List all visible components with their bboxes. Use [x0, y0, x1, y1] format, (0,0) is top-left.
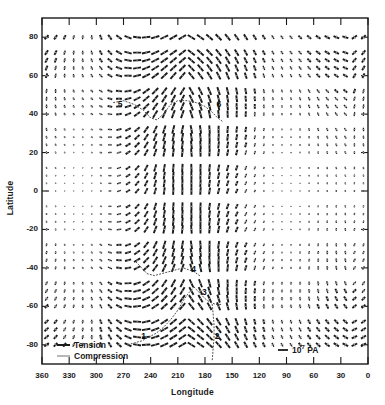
compression-segment [299, 306, 302, 307]
compression-segment [326, 137, 328, 138]
compression-segment [200, 91, 202, 92]
compression-segment [254, 145, 256, 146]
compression-segment [263, 214, 264, 215]
x-tick-label: 150 [217, 371, 247, 380]
compression-segment [263, 183, 264, 184]
compression-segment [64, 144, 65, 145]
compression-segment [299, 106, 301, 107]
compression-segment [182, 91, 183, 92]
compression-segment [73, 229, 74, 230]
compression-segment [119, 136, 120, 138]
compression-segment [119, 128, 120, 130]
compression-segment [91, 152, 92, 153]
x-tick-label: 180 [190, 371, 220, 380]
compression-segment [164, 336, 165, 338]
compression-segment [227, 229, 229, 230]
y-tick-label: -60 [12, 301, 38, 310]
compression-segment [281, 91, 283, 92]
compression-segment [173, 329, 174, 330]
compression-segment [236, 175, 238, 176]
compression-segment [217, 298, 219, 299]
compression-segment [236, 145, 238, 146]
x-tick-label: 120 [244, 371, 274, 380]
compression-segment [263, 175, 264, 176]
compression-segment [191, 344, 192, 345]
compression-segment [344, 268, 346, 269]
compression-segment [281, 268, 283, 269]
compression-segment [263, 168, 265, 169]
compression-segment [290, 252, 292, 253]
x-tick-label: 360 [27, 371, 57, 380]
compression-segment [145, 191, 147, 192]
compression-segment [272, 191, 273, 192]
compression-segment [281, 229, 282, 230]
compression-segment [146, 51, 147, 53]
compression-segment [281, 206, 282, 207]
compression-segment [182, 283, 183, 284]
compression-segment [82, 175, 83, 176]
compression-segment [73, 175, 74, 176]
compression-segment [155, 36, 156, 38]
compression-segment [253, 321, 256, 322]
compression-segment [236, 168, 238, 169]
compression-segment [146, 59, 147, 61]
compression-segment [272, 268, 274, 269]
compression-segment [182, 298, 183, 299]
compression-segment [290, 229, 291, 230]
compression-segment [227, 183, 229, 184]
compression-segment [101, 221, 102, 223]
compression-segment [82, 221, 83, 222]
compression-segment [82, 167, 83, 168]
compression-segment [191, 106, 192, 107]
compression-segment [281, 191, 282, 192]
compression-segment [110, 105, 111, 108]
compression-segment [163, 245, 165, 246]
compression-segment [245, 268, 247, 269]
compression-segment [119, 190, 120, 192]
compression-segment [263, 283, 265, 284]
compression-segment [182, 106, 183, 107]
compression-segment [101, 128, 102, 130]
compression-segment [227, 175, 229, 176]
compression-segment [163, 106, 165, 107]
compression-segment [91, 214, 92, 215]
compression-segment [227, 245, 229, 246]
compression-segment [45, 268, 47, 269]
compression-segment [73, 152, 74, 153]
compression-segment [254, 283, 257, 284]
compression-segment [128, 51, 129, 54]
y-tick-label: 0 [12, 186, 38, 195]
compression-segment [137, 290, 138, 292]
compression-segment [227, 206, 229, 207]
y-tick-label: 60 [12, 71, 38, 80]
compression-segment [154, 221, 156, 222]
compression-segment [173, 37, 174, 38]
compression-segment [362, 91, 365, 92]
compression-segment [217, 291, 219, 292]
compression-segment [154, 145, 156, 146]
compression-segment [182, 98, 183, 99]
compression-segment [254, 168, 256, 169]
compression-segment [82, 244, 83, 245]
compression-segment [236, 260, 238, 261]
scale-bar-label: 107 PA [292, 344, 318, 355]
compression-segment [335, 145, 337, 146]
compression-segment [245, 175, 247, 176]
compression-segment [101, 213, 102, 215]
compression-segment [81, 329, 84, 330]
compression-segment [245, 183, 247, 184]
compression-segment [227, 191, 229, 192]
compression-segment [119, 74, 120, 77]
compression-segment [363, 245, 365, 246]
compression-segment [281, 221, 282, 222]
compression-segment [119, 144, 120, 146]
compression-segment [345, 152, 347, 153]
compression-segment [154, 137, 156, 138]
compression-segment [182, 291, 183, 292]
compression-segment [91, 221, 92, 222]
compression-segment [335, 152, 337, 153]
y-tick-label: -20 [12, 224, 38, 233]
legend-tension-label: Tension [74, 340, 106, 350]
compression-segment [263, 152, 265, 153]
compression-segment [173, 283, 174, 284]
